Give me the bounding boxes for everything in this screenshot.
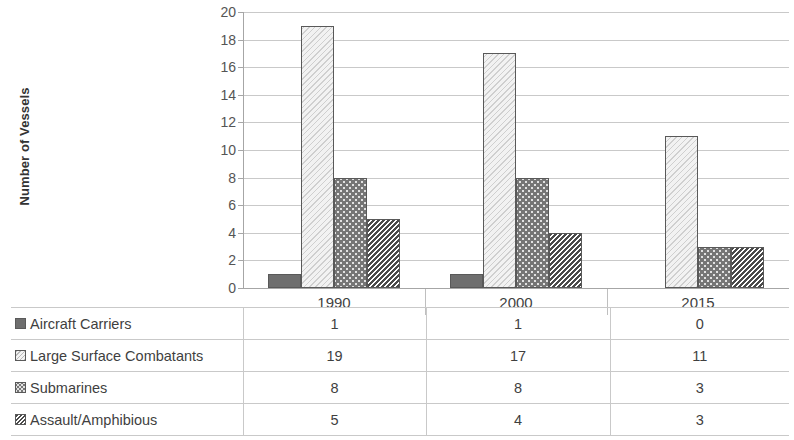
y-axis-tick xyxy=(238,12,243,13)
table-cell-value: 11 xyxy=(610,340,789,372)
table-cell-value: 8 xyxy=(243,372,426,404)
legend-row-label: Large Surface Combatants xyxy=(11,340,243,372)
y-tick-label: 8 xyxy=(196,171,236,185)
y-axis-tick xyxy=(238,40,243,41)
table-row: Submarines883 xyxy=(11,372,789,404)
y-tick-label: 16 xyxy=(196,60,236,74)
y-tick-label: 6 xyxy=(196,198,236,212)
y-tick-label: 10 xyxy=(196,143,236,157)
y-tick-label: 4 xyxy=(196,226,236,240)
legend-label-text: Submarines xyxy=(30,380,107,396)
y-tick-label: 12 xyxy=(196,115,236,129)
table-row: Large Surface Combatants191711 xyxy=(11,340,789,372)
y-axis-tick xyxy=(238,260,243,261)
table-cell-value: 4 xyxy=(426,404,610,436)
legend-swatch-icon xyxy=(15,350,26,361)
bar xyxy=(301,26,334,288)
table-cell-value: 1 xyxy=(426,308,610,340)
y-tick-label: 18 xyxy=(196,33,236,47)
bar xyxy=(483,53,516,288)
table-row: Aircraft Carriers110 xyxy=(11,308,789,340)
y-axis-tick xyxy=(238,122,243,123)
y-axis-tick xyxy=(238,95,243,96)
plot-area xyxy=(243,12,789,288)
y-axis-tick xyxy=(238,178,243,179)
legend-label-text: Aircraft Carriers xyxy=(30,316,132,332)
y-tick-label: 14 xyxy=(196,88,236,102)
table-cell-value: 8 xyxy=(426,372,610,404)
bar-chart: 02468101214161820 199020002015 xyxy=(0,0,794,300)
legend-label-text: Assault/Amphibious xyxy=(30,412,157,428)
legend-row-label: Assault/Amphibious xyxy=(11,404,243,436)
y-axis-tick xyxy=(238,205,243,206)
table-cell-value: 3 xyxy=(610,404,789,436)
y-axis-tick-labels: 02468101214161820 xyxy=(196,0,236,300)
legend-swatch-icon xyxy=(15,318,26,329)
y-axis-tick xyxy=(238,67,243,68)
table-cell-value: 0 xyxy=(610,308,789,340)
bar xyxy=(367,219,400,288)
legend-swatch-icon xyxy=(15,382,26,393)
table-body: Aircraft Carriers110Large Surface Combat… xyxy=(11,308,789,436)
bar xyxy=(698,247,731,288)
y-tick-label: 0 xyxy=(196,281,236,295)
legend-row-label: Aircraft Carriers xyxy=(11,308,243,340)
y-axis-tick xyxy=(238,233,243,234)
y-tick-label: 20 xyxy=(196,5,236,19)
bar xyxy=(665,136,698,288)
bar xyxy=(268,274,301,288)
y-axis-tick xyxy=(238,288,243,289)
gridline xyxy=(243,12,789,13)
table-cell-value: 19 xyxy=(243,340,426,372)
legend-swatch-icon xyxy=(15,414,26,425)
table-cell-value: 3 xyxy=(610,372,789,404)
table-cell-value: 17 xyxy=(426,340,610,372)
legend-row-label: Submarines xyxy=(11,372,243,404)
y-tick-label: 2 xyxy=(196,253,236,267)
table-cell-value: 5 xyxy=(243,404,426,436)
y-axis-tick xyxy=(238,150,243,151)
bar xyxy=(731,247,764,288)
chart-with-data-table: Number of Vessels 02468101214161820 1990… xyxy=(0,0,794,440)
bar xyxy=(516,178,549,288)
y-axis-line xyxy=(243,12,244,289)
bar xyxy=(450,274,483,288)
data-table: Aircraft Carriers110Large Surface Combat… xyxy=(11,307,789,436)
legend-label-text: Large Surface Combatants xyxy=(30,348,203,364)
bar xyxy=(334,178,367,288)
table-cell-value: 1 xyxy=(243,308,426,340)
table-row: Assault/Amphibious543 xyxy=(11,404,789,436)
bar xyxy=(549,233,582,288)
